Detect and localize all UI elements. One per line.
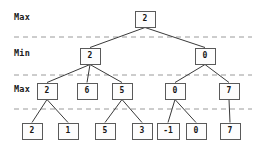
tree-node-max-2: 6 (77, 83, 98, 100)
tree-node-max-1: 2 (37, 83, 58, 100)
tree-edge-max-5-to-leaf-7 (229, 100, 230, 123)
tree-edge-max-4-to-leaf-5 (168, 100, 175, 123)
tree-node-min-1: 2 (80, 48, 101, 65)
tree-node-leaf-7: 7 (220, 123, 241, 140)
tree-edge-min-1-to-max-1 (47, 65, 90, 83)
tree-edge-max-1-to-leaf-1 (32, 100, 47, 123)
tree-edge-max-3-to-leaf-3 (105, 100, 122, 123)
tree-node-leaf-2: 1 (58, 123, 79, 140)
tree-node-leaf-1: 2 (22, 123, 43, 140)
tree-edge-max-3-to-leaf-4 (122, 100, 142, 123)
tree-node-root: 2 (135, 11, 156, 28)
tree-node-max-5: 7 (219, 83, 240, 100)
tree-edge-max-4-to-leaf-6 (175, 100, 196, 123)
tree-node-leaf-3: 5 (95, 123, 116, 140)
tree-edge-min-1-to-max-3 (90, 65, 122, 83)
tree-node-leaf-4: 3 (132, 123, 153, 140)
tree-edge-min-2-to-max-5 (205, 65, 229, 83)
tree-node-leaf-5: -1 (157, 123, 180, 140)
level-label-3: Max (14, 84, 30, 94)
tree-node-leaf-6: 0 (186, 123, 207, 140)
tree-edge-min-1-to-max-2 (87, 65, 90, 83)
level-label-1: Max (14, 12, 30, 22)
tree-edge-max-1-to-leaf-2 (47, 100, 68, 123)
level-label-2: Min (14, 48, 30, 58)
tree-edge-min-2-to-max-4 (175, 65, 205, 83)
tree-node-max-4: 0 (165, 83, 186, 100)
minimax-tree-diagram: MaxMinMax 220265072153-107 (0, 0, 258, 149)
tree-node-max-3: 5 (112, 83, 133, 100)
tree-node-min-2: 0 (195, 48, 216, 65)
